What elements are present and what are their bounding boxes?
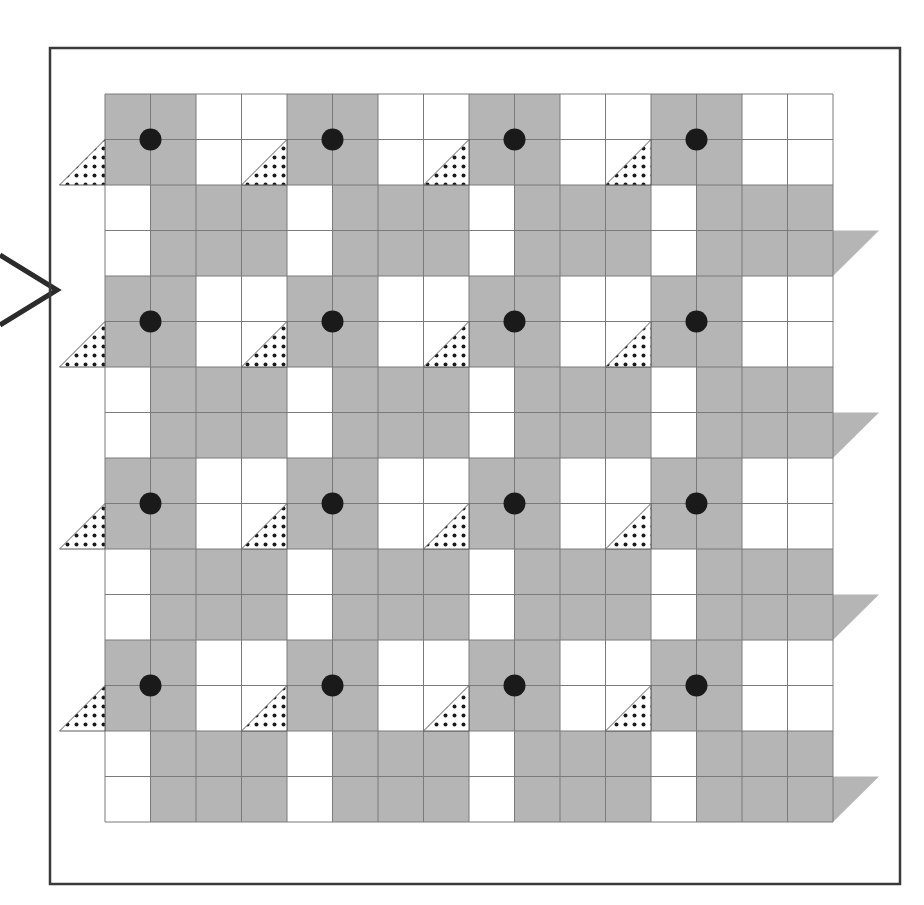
- grid-cell: [515, 777, 561, 823]
- grid-cell: [742, 413, 788, 459]
- grid-cell: [242, 731, 288, 777]
- grid-cell: [424, 276, 470, 322]
- grid-cell: [606, 367, 652, 413]
- grid-cell: [424, 367, 470, 413]
- grid-cell: [469, 413, 515, 459]
- grid-cell: [606, 185, 652, 231]
- grid-cell: [424, 640, 470, 686]
- figure-root: [0, 0, 924, 905]
- grid-cell: [287, 367, 333, 413]
- grid-cell: [196, 276, 242, 322]
- grid-cell: [560, 367, 606, 413]
- grid-cell: [788, 458, 834, 504]
- grid-cell: [287, 731, 333, 777]
- grid-cell: [378, 777, 424, 823]
- diagram-canvas: [0, 0, 924, 905]
- grid-cell: [469, 731, 515, 777]
- grid-cell: [424, 231, 470, 277]
- black-node-dot: [140, 675, 162, 697]
- grid-cell: [560, 731, 606, 777]
- grid-cell: [242, 595, 288, 641]
- grid-cell: [196, 595, 242, 641]
- grid-cell: [242, 777, 288, 823]
- grid-cell: [788, 549, 834, 595]
- grid-cell: [105, 413, 151, 459]
- grid-cell: [378, 231, 424, 277]
- grid-cell: [378, 686, 424, 732]
- grid-cell: [424, 185, 470, 231]
- grid-cell: [287, 549, 333, 595]
- grid-cell: [788, 322, 834, 368]
- grid-cell: [333, 777, 379, 823]
- grid-cell: [742, 276, 788, 322]
- grid-cell: [788, 140, 834, 186]
- grid-cell: [469, 185, 515, 231]
- grid-cell: [242, 185, 288, 231]
- grid-cell: [287, 231, 333, 277]
- grid-cell: [242, 94, 288, 140]
- grid-cell: [651, 595, 697, 641]
- grid-cell: [515, 367, 561, 413]
- grid-cell: [742, 686, 788, 732]
- grid-cell: [105, 367, 151, 413]
- grid-cell: [697, 595, 743, 641]
- grid-cell: [742, 94, 788, 140]
- grid-cell: [788, 94, 834, 140]
- grid-cell: [424, 549, 470, 595]
- grid-cell: [196, 322, 242, 368]
- grid-cell: [742, 231, 788, 277]
- grid-cell: [333, 413, 379, 459]
- grid-cell: [788, 367, 834, 413]
- grid-cell: [560, 777, 606, 823]
- grid-cell: [378, 595, 424, 641]
- grid-cell: [560, 504, 606, 550]
- black-node-dot: [504, 675, 526, 697]
- black-node-dot: [322, 311, 344, 333]
- grid-cell: [196, 777, 242, 823]
- grid-cell: [788, 731, 834, 777]
- grid-cell: [606, 276, 652, 322]
- grid-cell: [378, 504, 424, 550]
- grid-cell: [105, 777, 151, 823]
- grid-cell: [378, 731, 424, 777]
- grid-cell: [424, 413, 470, 459]
- grid-cell: [788, 504, 834, 550]
- grid-cell: [378, 367, 424, 413]
- grid-cell: [606, 640, 652, 686]
- grid-cell: [788, 413, 834, 459]
- grid-cell: [424, 458, 470, 504]
- grid-cell: [651, 731, 697, 777]
- grid-cell: [424, 94, 470, 140]
- grid-cell: [788, 640, 834, 686]
- grid-cell: [424, 595, 470, 641]
- grid-cell: [196, 504, 242, 550]
- grid-cell: [742, 777, 788, 823]
- black-node-dot: [504, 493, 526, 515]
- grid-cell: [196, 185, 242, 231]
- grid-cell: [378, 140, 424, 186]
- grid-cell: [151, 413, 197, 459]
- grid-cell: [742, 322, 788, 368]
- grid-cell: [742, 140, 788, 186]
- grid-cell: [742, 367, 788, 413]
- grid-cell: [788, 231, 834, 277]
- grid-cell: [242, 276, 288, 322]
- black-node-dot: [322, 493, 344, 515]
- grid-cell: [651, 231, 697, 277]
- grid-cell: [469, 231, 515, 277]
- grid-cell: [242, 413, 288, 459]
- grid-cell: [742, 549, 788, 595]
- grid-cell: [651, 777, 697, 823]
- grid-cell: [606, 731, 652, 777]
- grid-cell: [560, 413, 606, 459]
- grid-cell: [151, 367, 197, 413]
- grid-cell: [469, 367, 515, 413]
- grid-cell: [242, 640, 288, 686]
- grid-cell: [697, 231, 743, 277]
- grid-cell: [742, 504, 788, 550]
- grid-cell: [378, 413, 424, 459]
- black-node-dot: [686, 493, 708, 515]
- black-node-dot: [686, 675, 708, 697]
- grid-cell: [697, 185, 743, 231]
- grid-cell: [697, 413, 743, 459]
